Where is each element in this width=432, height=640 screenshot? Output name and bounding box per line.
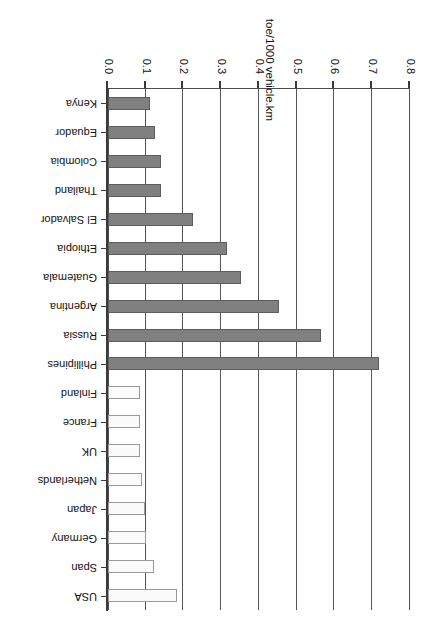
category-axis-tickmark <box>101 393 106 394</box>
category-axis-tickmark <box>101 480 106 481</box>
category-axis-tickmark <box>101 538 106 539</box>
category-axis-label: Netherlands <box>38 474 97 485</box>
category-label-slot: Span <box>0 552 106 581</box>
bar <box>108 473 142 486</box>
category-axis-tickmark <box>101 132 106 133</box>
category-axis-label: Phillipines <box>47 358 97 369</box>
bar <box>108 300 279 313</box>
value-axis-tickmark <box>219 81 221 88</box>
category-axis-tickmark <box>101 219 106 220</box>
bar <box>108 444 140 457</box>
value-axis-tickmark <box>257 81 259 88</box>
bar <box>108 357 379 370</box>
category-axis-label: Japan <box>67 503 97 514</box>
category-label-slot: Argentina <box>0 292 106 321</box>
bar <box>108 560 154 573</box>
category-axis-label: Ethiopia <box>57 243 97 254</box>
category-axis-tickmark <box>101 509 106 510</box>
bar <box>108 329 321 342</box>
category-label-slot: Phillipines <box>0 350 106 379</box>
value-axis-tick-label: 0.5 <box>292 28 303 74</box>
category-label-slot: Netherlands <box>0 465 106 494</box>
bar <box>108 502 145 515</box>
category-axis-label: Equador <box>55 127 97 138</box>
category-label-slot: UK <box>0 436 106 465</box>
category-axis-label: Germany <box>52 532 97 543</box>
category-axis-tickmark <box>101 364 106 365</box>
category-axis-label: Span <box>71 561 97 572</box>
bar <box>108 386 140 399</box>
value-axis-tick-label: 0.6 <box>330 28 341 74</box>
category-axis-label: Guatemala <box>43 272 97 283</box>
category-label-slot: Kenya <box>0 89 106 118</box>
value-axis-tick-label: 0.7 <box>367 28 378 74</box>
bar <box>108 126 155 139</box>
category-axis-label: Thailand <box>55 185 97 196</box>
value-axis-tickmark <box>333 81 335 88</box>
value-axis-title: toe/1000 vehicle.km <box>264 0 276 150</box>
category-axis-label: Colombia <box>51 156 97 167</box>
value-axis-tick-label: 0.8 <box>405 28 416 74</box>
category-axis-label: USA <box>74 590 97 601</box>
category-label-slot: Thailand <box>0 176 106 205</box>
value-axis-tick-label: 0.3 <box>216 28 227 74</box>
category-axis-tickmark <box>101 451 106 452</box>
category-axis-tickmark <box>101 190 106 191</box>
value-axis-tick-label: 0.1 <box>141 28 152 74</box>
category-axis-tickmark <box>101 596 106 597</box>
category-axis-tickmark <box>101 306 106 307</box>
category-axis-label: Russia <box>63 330 97 341</box>
value-axis-tickmark <box>295 81 297 88</box>
bar <box>108 184 161 197</box>
category-axis-label: El Salvador <box>41 214 97 225</box>
category-axis-label: France <box>63 416 97 427</box>
value-axis-tick-label: 0.2 <box>179 28 190 74</box>
category-label-slot: Germany <box>0 523 106 552</box>
category-label-slot: France <box>0 407 106 436</box>
category-label-slot: Japan <box>0 494 106 523</box>
bar <box>108 97 150 110</box>
bar <box>108 589 177 602</box>
category-axis-label: Finland <box>61 387 97 398</box>
bar <box>108 242 227 255</box>
category-label-slot: Russia <box>0 321 106 350</box>
category-axis-tickmark <box>101 103 106 104</box>
category-axis-tickmark <box>101 248 106 249</box>
category-axis-tickmark <box>101 161 106 162</box>
category-label-slot: El Salvador <box>0 205 106 234</box>
category-axis-label: Argentina <box>50 301 97 312</box>
bar <box>108 155 161 168</box>
bar <box>108 271 241 284</box>
value-axis-tick-label: 0.0 <box>103 28 114 74</box>
category-axis-labels: KenyaEquadorColombiaThailandEl SalvadorE… <box>0 89 106 610</box>
category-label-slot: Equador <box>0 118 106 147</box>
value-axis-tickmark <box>182 81 184 88</box>
category-axis-tickmark <box>101 277 106 278</box>
category-label-slot: USA <box>0 581 106 610</box>
category-label-slot: Colombia <box>0 147 106 176</box>
category-axis-label: Kenya <box>66 98 97 109</box>
bar <box>108 531 146 544</box>
category-axis-tickmark <box>101 335 106 336</box>
category-axis-label: UK <box>82 445 97 456</box>
category-label-slot: Finland <box>0 378 106 407</box>
chart-rotation-wrapper: 0.00.10.20.30.40.50.60.70.8 KenyaEquador… <box>0 0 432 640</box>
bar-chart-figure: 0.00.10.20.30.40.50.60.70.8 KenyaEquador… <box>0 0 432 640</box>
value-axis-tickmark <box>370 81 372 88</box>
bar-series <box>108 89 410 610</box>
bar <box>108 213 193 226</box>
category-label-slot: Guatemala <box>0 263 106 292</box>
category-label-slot: Ethiopia <box>0 234 106 263</box>
category-axis-tickmark <box>101 422 106 423</box>
bar <box>108 415 140 428</box>
value-axis-tickmark <box>106 81 108 88</box>
category-axis-tickmark <box>101 567 106 568</box>
value-axis-tickmark <box>144 81 146 88</box>
value-axis-tickmark <box>408 81 410 88</box>
